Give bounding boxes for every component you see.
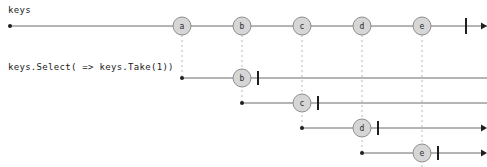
result-3-marble-d[interactable]: d (353, 119, 371, 137)
result-2-marble-value-c: c (300, 99, 305, 108)
source-marble-value-c: c (300, 22, 305, 31)
operator-expression-label: keys.Select( => keys.Take(1)) (8, 62, 174, 72)
result-1-marble-value-b: b (240, 74, 245, 83)
source-marble-value-d: d (360, 22, 365, 31)
timeline-layer (8, 18, 487, 160)
source-arrow-icon (481, 23, 487, 30)
marble-diagram: keyskeys.Select( => keys.Take(1)) abcdeb… (0, 0, 487, 167)
marble-diagram-canvas: keyskeys.Select( => keys.Take(1)) abcdeb… (0, 0, 487, 167)
result-3-start-dot (300, 126, 304, 130)
result-4-marble-value-e: e (420, 149, 425, 158)
source-marble-value-e: e (420, 22, 425, 31)
source-marble-b[interactable]: b (233, 17, 251, 35)
result-4-arrow-icon (481, 150, 487, 157)
result-1-marble-b[interactable]: b (233, 69, 251, 87)
source-marble-value-a: a (180, 22, 185, 31)
result-3-marble-value-d: d (360, 124, 365, 133)
source-marble-d[interactable]: d (353, 17, 371, 35)
result-4-marble-e[interactable]: e (413, 144, 431, 162)
source-marble-value-b: b (240, 22, 245, 31)
source-marble-c[interactable]: c (293, 17, 311, 35)
result-2-marble-c[interactable]: c (293, 94, 311, 112)
source-stream-label: keys (8, 5, 31, 15)
result-3-arrow-icon (481, 125, 487, 132)
result-1-start-dot (180, 76, 184, 80)
result-4-start-dot (360, 151, 364, 155)
result-2-start-dot (240, 101, 244, 105)
source-start-dot (8, 24, 12, 28)
marble-layer: abcdebcde (173, 17, 431, 162)
stream-label-layer: keyskeys.Select( => keys.Take(1)) (8, 5, 174, 72)
source-marble-a[interactable]: a (173, 17, 191, 35)
source-marble-e[interactable]: e (413, 17, 431, 35)
